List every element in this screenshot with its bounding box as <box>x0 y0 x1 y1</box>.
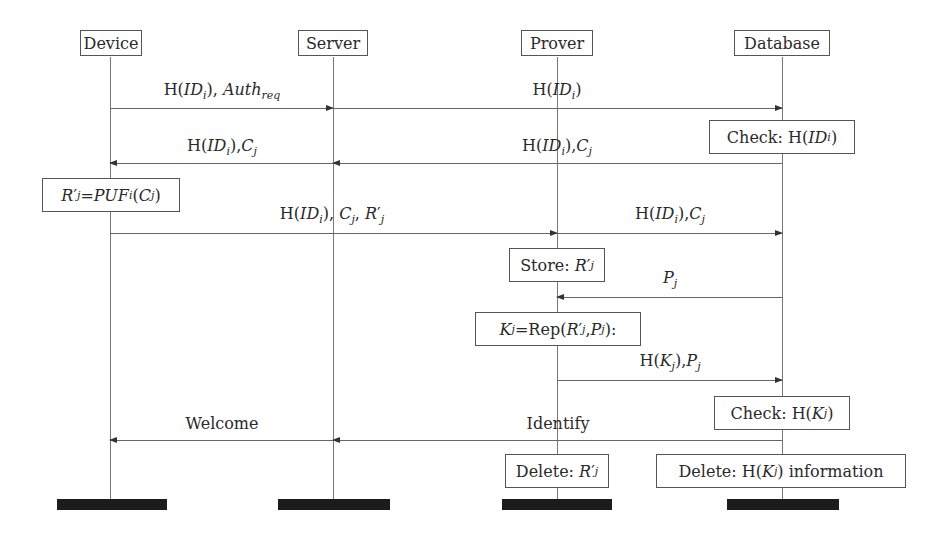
arrow-identify <box>333 440 782 441</box>
msg-response: H(IDi), Cj, R′j <box>280 204 384 226</box>
lifeline-server <box>333 57 334 500</box>
msg-challenge-server: H(IDi),Cj <box>522 136 592 158</box>
arrow-hid-to-database <box>333 108 782 109</box>
actor-database: Database <box>734 30 830 56</box>
note-store: Store: R′j <box>509 248 605 282</box>
msg-helper-data: Pj <box>663 268 677 290</box>
actor-server-label: Server <box>306 34 360 53</box>
msg-challenge-device: H(IDi),Cj <box>187 136 257 158</box>
arrow-key-hash <box>557 380 782 381</box>
actor-database-label: Database <box>744 34 820 53</box>
arrow-auth-request <box>110 108 333 109</box>
actor-device: Device <box>80 30 142 56</box>
actor-server: Server <box>298 30 368 56</box>
arrow-helper-data <box>557 297 782 298</box>
endbar-database <box>727 499 839 510</box>
note-delete-response: Delete: R′j <box>505 454 609 488</box>
actor-prover-label: Prover <box>530 34 584 53</box>
msg-hid: H(IDi) <box>532 80 581 102</box>
arrow-response-to-prover <box>110 233 557 234</box>
actor-prover: Prover <box>521 30 593 56</box>
msg-identify: Identify <box>527 414 590 433</box>
actor-device-label: Device <box>84 34 139 53</box>
arrow-challenge-to-database <box>557 233 782 234</box>
msg-key-hash: H(Kj),Pj <box>639 351 700 373</box>
endbar-prover <box>502 499 612 510</box>
endbar-server <box>278 499 390 510</box>
lifeline-device <box>110 57 111 500</box>
msg-auth-request: H(IDi), Authreq <box>164 80 281 102</box>
note-check-key: Check: H(Kj) <box>714 396 850 430</box>
note-reproduce-key: Kj=Rep(R′j,Pj): <box>475 312 641 346</box>
note-check-hid: Check: H(IDi) <box>709 120 855 154</box>
msg-welcome: Welcome <box>186 414 259 433</box>
note-puf-response: R′j=PUFi(Cj) <box>42 178 180 212</box>
arrow-welcome <box>110 440 333 441</box>
note-delete-key-info: Delete: H(Kj) information <box>656 454 906 488</box>
endbar-device <box>57 499 167 510</box>
arrow-challenge-to-device <box>110 163 333 164</box>
msg-challenge-db: H(IDi),Cj <box>635 204 705 226</box>
arrow-challenge-to-server <box>333 163 782 164</box>
